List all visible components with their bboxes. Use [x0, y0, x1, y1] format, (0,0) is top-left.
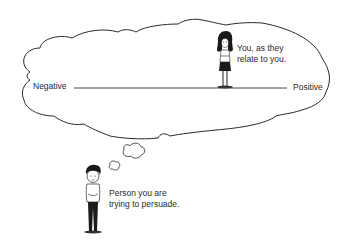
caption-you: You, as they relate to you. — [237, 43, 286, 64]
thought-cloud-outline — [22, 19, 329, 139]
thought-bubble-small — [109, 161, 120, 170]
thought-bubble-large — [123, 143, 145, 158]
caption-you-line2: relate to you. — [237, 54, 286, 65]
axis-label-positive: Positive — [293, 82, 323, 93]
caption-person: Person you are trying to persuade. — [109, 188, 179, 209]
figure-person — [84, 165, 102, 234]
caption-person-line2: trying to persuade. — [109, 199, 179, 210]
axis-label-negative: Negative — [33, 81, 67, 92]
caption-person-line1: Person you are — [109, 188, 179, 199]
caption-you-line1: You, as they — [237, 43, 286, 54]
